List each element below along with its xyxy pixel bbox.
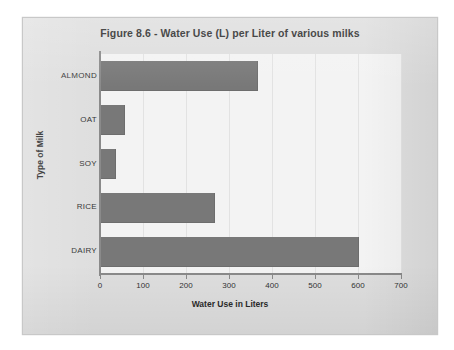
bar [100,193,215,223]
y-axis-tick-label: RICE [33,202,97,211]
y-axis-line [99,51,101,276]
x-axis-tick-mark [229,274,230,279]
y-axis-tick-label: DAIRY [33,246,97,255]
y-axis-title: Type of Milk [35,110,45,200]
x-axis-tick-mark [315,274,316,279]
bar [100,237,359,267]
x-axis-tick-label: 400 [265,281,278,290]
x-axis-tick-label: 0 [98,281,102,290]
x-axis-tick-mark [358,274,359,279]
x-axis-tick-label: 600 [351,281,364,290]
x-axis-tick-label: 300 [222,281,235,290]
x-axis-tick-mark [186,274,187,279]
x-axis-tick-mark [100,274,101,279]
x-axis-tick-mark [272,274,273,279]
chart-figure-card: Figure 8.6 - Water Use (L) per Liter of … [22,17,438,335]
y-axis-tick-label: ALMOND [33,71,97,80]
plot-area [100,54,401,273]
gridline [401,54,402,273]
scanned-page: Figure 8.6 - Water Use (L) per Liter of … [0,0,454,350]
x-axis-tick-labels: 0100200300400500600700 [100,274,403,300]
chart-title: Figure 8.6 - Water Use (L) per Liter of … [23,27,437,39]
bar [100,61,258,91]
x-axis-tick-mark [401,274,402,279]
x-axis-tick-mark [143,274,144,279]
bar [100,105,125,135]
x-axis-tick-label: 200 [179,281,192,290]
x-axis-tick-label: 500 [308,281,321,290]
x-axis-tick-label: 100 [136,281,149,290]
x-axis-title: Water Use in Liters [23,299,437,309]
x-axis-tick-label: 700 [394,281,407,290]
bar [100,149,116,179]
